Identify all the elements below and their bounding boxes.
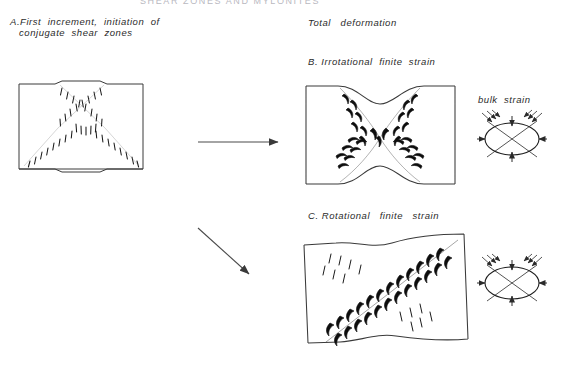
bulk-strain-ellipse-b bbox=[477, 110, 547, 162]
figure-canvas bbox=[0, 0, 563, 365]
panel-b-block bbox=[306, 86, 455, 184]
panel-c-block bbox=[304, 234, 468, 346]
panel-a-block bbox=[19, 81, 143, 172]
figure-root: SHEAR ZONES AND MYLONITES A.First increm… bbox=[0, 0, 563, 365]
panel-c-shear-trace bbox=[326, 240, 458, 342]
panel-b-shear-marks bbox=[335, 94, 424, 171]
bulk-strain-ellipse-c bbox=[477, 254, 547, 306]
panel-c-shear-marks-bold bbox=[326, 248, 452, 346]
panel-a-shear-marks bbox=[28, 88, 138, 167]
arrow-a-to-c bbox=[198, 228, 249, 274]
